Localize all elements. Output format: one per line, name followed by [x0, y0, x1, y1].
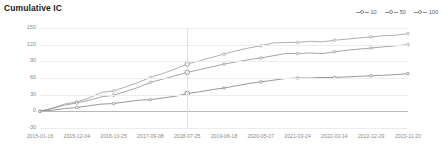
data-point-marker	[76, 102, 79, 105]
legend-item-10[interactable]: 10	[356, 9, 377, 16]
gridline-horizontal	[40, 95, 408, 96]
data-point-marker	[223, 53, 226, 56]
legend-label: 100	[429, 10, 438, 16]
gridline-horizontal	[40, 45, 408, 46]
x-axis-tick-label: 2018-07-25	[174, 134, 201, 139]
data-point-marker	[149, 98, 152, 101]
data-point-marker	[407, 72, 410, 75]
data-point-marker	[112, 89, 115, 92]
x-axis-tick-label: 2017-09-08	[137, 134, 164, 139]
legend-marker-icon	[385, 9, 398, 16]
gridline-horizontal	[40, 28, 408, 29]
legend-item-100[interactable]: 100	[414, 9, 438, 16]
cumulative-ic-chart: Cumulative IC 1050100 1501209060300-3020…	[0, 0, 442, 150]
gridline-horizontal	[40, 128, 408, 129]
zero-axis-line	[40, 111, 408, 112]
data-point-marker	[370, 74, 373, 77]
legend-label: 10	[371, 10, 377, 16]
data-point-marker	[223, 87, 226, 90]
data-point-marker	[260, 57, 263, 60]
y-axis-tick-label: 90	[30, 59, 36, 65]
data-point-marker	[223, 63, 226, 66]
chart-title: Cumulative IC	[4, 3, 62, 13]
legend-label: 50	[400, 10, 406, 16]
data-point-marker	[296, 52, 299, 55]
data-point-marker	[407, 32, 410, 35]
x-axis-tick-label: 2021-03-24	[284, 134, 311, 139]
data-point-marker	[260, 81, 263, 84]
chart-legend: 1050100	[356, 9, 438, 16]
y-axis-tick-label: 60	[30, 75, 36, 81]
data-point-marker	[112, 102, 115, 105]
series-line	[40, 74, 408, 112]
y-axis-tick-label: -30	[28, 125, 36, 131]
x-axis-tick-label: 2020-05-07	[248, 134, 275, 139]
legend-marker-icon	[414, 9, 427, 16]
y-axis-tick-label: 150	[27, 25, 36, 31]
y-axis-tick-label: 30	[30, 92, 36, 98]
data-point-marker	[333, 39, 336, 42]
x-axis-tick-label: 2019-06-18	[211, 134, 238, 139]
plot-area: 1501209060300-302015-01-162015-12-042016…	[40, 28, 408, 128]
legend-marker-icon	[356, 9, 369, 16]
y-axis-tick-label: 0	[33, 109, 36, 115]
legend-item-50[interactable]: 50	[385, 9, 406, 16]
data-point-marker	[333, 51, 336, 54]
x-axis-tick-label: 2022-03-14	[321, 134, 348, 139]
x-axis-tick-label: 2015-01-16	[27, 134, 54, 139]
x-axis-tick-label: 2023-11-20	[395, 134, 421, 139]
highlight-vertical-line	[187, 28, 188, 128]
data-point-marker	[370, 47, 373, 50]
data-point-marker	[370, 36, 373, 39]
data-point-marker	[76, 106, 79, 109]
x-axis-tick-label: 2015-12-04	[64, 134, 91, 139]
x-axis-tick-label: 2022-12-29	[358, 134, 385, 139]
y-axis-tick-label: 120	[27, 42, 36, 48]
x-axis-tick-label: 2016-10-25	[100, 134, 127, 139]
data-point-marker	[296, 41, 299, 44]
data-point-marker	[149, 81, 152, 84]
gridline-horizontal	[40, 61, 408, 62]
gridline-horizontal	[40, 78, 408, 79]
